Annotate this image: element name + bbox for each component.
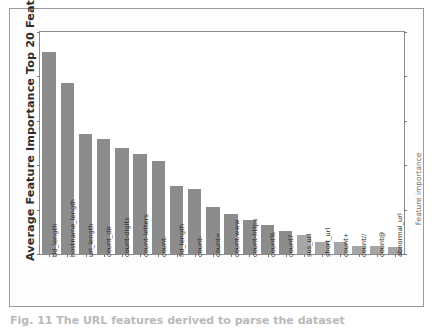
x-axis-tick-label: url_length: [87, 223, 95, 257]
x-axis-tick-label: count//: [360, 234, 368, 257]
x-axis-tick-label: count?: [287, 235, 295, 257]
secondary-axis-label: Feature importance: [414, 129, 426, 249]
x-axis-tick-label: count_dir: [105, 226, 113, 257]
x-axis-tick-label: count-https: [251, 218, 259, 257]
x-axis-tick-label: count=: [214, 233, 222, 257]
y-axis-tick-right: [404, 32, 407, 33]
x-axis-tick-label: count%: [269, 232, 277, 257]
plot-area: [39, 31, 405, 255]
y-axis-tick-left: [37, 210, 40, 211]
y-axis-tick-left: [37, 165, 40, 166]
x-axis-tick-label: sus_url: [305, 234, 313, 257]
x-axis-tick-label: count+: [342, 233, 350, 257]
y-axis-tick-right: [404, 76, 407, 77]
x-axis-tick-labels: tld_lengthhostname_lengthurl_lengthcount…: [39, 257, 405, 317]
x-axis-tick-label: hostname_length: [69, 199, 77, 257]
y-axis-tick-right: [404, 165, 407, 166]
figure-caption: Fig. 11 The URL features derived to pars…: [10, 314, 430, 328]
x-axis-tick-label: count.: [160, 236, 168, 257]
x-axis-tick-label: abnormal_url: [396, 213, 404, 257]
y-axis-tick-left: [37, 121, 40, 122]
x-axis-tick-label: short_url: [324, 228, 332, 257]
x-axis-tick-label: count-: [196, 236, 204, 257]
y-axis-tick-right: [404, 210, 407, 211]
x-axis-tick-label: tld_length: [51, 224, 59, 257]
y-axis-tick-left: [37, 76, 40, 77]
y-axis-tick-left: [37, 254, 40, 255]
x-axis-tick-label: count-digits: [123, 217, 131, 257]
x-axis-tick-label: fld_length: [178, 224, 186, 257]
x-axis-tick-label: count.www: [233, 220, 241, 257]
y-axis-tick-left: [37, 32, 40, 33]
bar-series: [40, 32, 404, 254]
x-axis-tick-label: count@: [378, 232, 386, 258]
x-axis-tick-label: count-letters: [142, 214, 150, 257]
y-axis-tick-right: [404, 121, 407, 122]
figure-frame: Average Feature Importance Top 20 Featur…: [9, 8, 424, 307]
y-axis-tick-right: [404, 254, 407, 255]
